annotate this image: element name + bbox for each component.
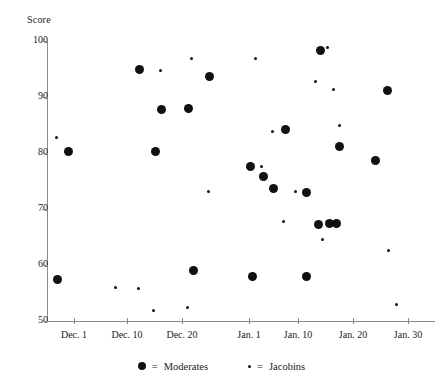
data-point-moderate xyxy=(189,266,198,275)
y-tick-label: 50 xyxy=(22,314,48,325)
data-point-moderate xyxy=(383,86,392,95)
legend-entry-jacobins: =Jacobins xyxy=(248,361,305,372)
x-tick-mark xyxy=(353,318,354,324)
x-tick-label: Dec. 10 xyxy=(111,329,142,340)
y-tick-mark xyxy=(42,209,48,210)
legend-entry-moderates: =Moderates xyxy=(138,361,208,372)
y-axis-title: Score xyxy=(27,14,51,25)
data-point-moderate xyxy=(281,125,290,134)
data-point-moderate xyxy=(184,104,193,113)
data-point-jacobin xyxy=(338,124,341,127)
y-tick-label: 90 xyxy=(22,90,48,101)
x-tick-mark xyxy=(249,318,250,324)
data-point-moderate xyxy=(248,272,257,281)
legend-marker-icon xyxy=(248,365,251,368)
data-point-moderate xyxy=(335,142,344,151)
data-point-jacobin xyxy=(190,57,193,60)
y-tick-label: 100 xyxy=(22,34,48,45)
legend-marker-icon xyxy=(138,362,146,370)
x-tick-label: Dec. 20 xyxy=(166,329,197,340)
data-point-moderate xyxy=(371,156,380,165)
data-point-jacobin xyxy=(159,69,162,72)
data-point-jacobin xyxy=(271,130,274,133)
data-point-moderate xyxy=(302,272,311,281)
data-point-moderate xyxy=(259,172,268,181)
data-point-jacobin xyxy=(207,190,210,193)
data-point-jacobin xyxy=(282,220,285,223)
data-point-moderate xyxy=(316,46,325,55)
x-tick-mark xyxy=(74,318,75,324)
x-tick-label: Jan. 30 xyxy=(394,329,422,340)
data-point-jacobin xyxy=(137,287,140,290)
data-point-jacobin xyxy=(321,238,324,241)
x-tick-mark xyxy=(127,318,128,324)
data-point-moderate xyxy=(205,72,214,81)
data-point-moderate xyxy=(332,219,341,228)
data-point-moderate xyxy=(135,65,144,74)
legend-label: Jacobins xyxy=(269,361,305,372)
data-point-jacobin xyxy=(55,136,58,139)
x-tick-label: Jan. 10 xyxy=(284,329,312,340)
data-point-moderate xyxy=(53,275,62,284)
data-point-jacobin xyxy=(387,249,390,252)
x-tick-label: Jan. 1 xyxy=(237,329,260,340)
data-point-moderate xyxy=(151,147,160,156)
y-tick-mark xyxy=(42,321,48,322)
y-tick-mark xyxy=(42,265,48,266)
data-point-jacobin xyxy=(260,165,263,168)
data-point-jacobin xyxy=(294,190,297,193)
data-point-jacobin xyxy=(326,46,329,49)
y-tick-mark xyxy=(42,153,48,154)
x-tick-label: Dec. 1 xyxy=(61,329,87,340)
x-axis-line xyxy=(47,321,435,322)
scatter-chart: Score 1009080706050 Dec. 1Dec. 10Dec. 20… xyxy=(0,0,443,389)
y-tick-label: 80 xyxy=(22,146,48,157)
data-point-jacobin xyxy=(314,80,317,83)
data-point-jacobin xyxy=(254,57,257,60)
data-point-jacobin xyxy=(152,309,155,312)
x-tick-mark xyxy=(408,318,409,324)
x-tick-label: Jan. 20 xyxy=(339,329,367,340)
y-tick-label: 70 xyxy=(22,202,48,213)
x-tick-mark xyxy=(298,318,299,324)
x-tick-mark xyxy=(182,318,183,324)
data-point-jacobin xyxy=(395,303,398,306)
legend-equals-sign: = xyxy=(257,361,263,372)
legend-label: Moderates xyxy=(164,361,208,372)
data-point-jacobin xyxy=(186,306,189,309)
data-point-moderate xyxy=(302,188,311,197)
data-point-jacobin xyxy=(332,88,335,91)
y-tick-mark xyxy=(42,41,48,42)
data-point-moderate xyxy=(157,105,166,114)
data-point-moderate xyxy=(314,220,323,229)
y-tick-label: 60 xyxy=(22,258,48,269)
y-axis-line xyxy=(47,41,48,322)
data-point-moderate xyxy=(64,147,73,156)
chart-legend: =Moderates=Jacobins xyxy=(0,356,443,376)
data-point-moderate xyxy=(246,162,255,171)
data-point-jacobin xyxy=(114,286,117,289)
data-point-moderate xyxy=(269,184,278,193)
y-tick-mark xyxy=(42,97,48,98)
legend-equals-sign: = xyxy=(152,361,158,372)
